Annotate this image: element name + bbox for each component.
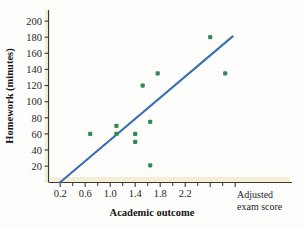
data-point [88, 132, 92, 136]
y-tick-label: 40 [32, 145, 43, 156]
y-tick-label: 180 [26, 32, 42, 43]
data-point [114, 132, 118, 136]
data-point [141, 83, 145, 87]
y-tick-label: 200 [26, 16, 42, 27]
y-tick-label: 120 [26, 80, 42, 91]
y-tick-label: 140 [26, 64, 42, 75]
y-axis-title: Homework (minutes) [4, 48, 16, 144]
y-tick-label: 100 [26, 96, 42, 107]
x-tick-label: 2.2 [179, 188, 192, 199]
x-tick-label: 0.6 [79, 188, 92, 199]
chart-canvas: 200 180 160 140 120 100 80 60 40 20 [0, 0, 306, 229]
y-axis-tick-labels: 200 180 160 140 120 100 80 60 40 20 [26, 16, 42, 172]
y-tick-label: 80 [32, 113, 43, 124]
x-tick-label: 1.0 [104, 188, 117, 199]
x-tick-label: 0.2 [54, 188, 67, 199]
data-point [133, 132, 137, 136]
y-tick-label: 60 [32, 129, 43, 140]
data-points-group [88, 35, 227, 167]
data-point [156, 71, 160, 75]
x-axis-secondary-label-line2: exam score [237, 201, 283, 212]
data-point [133, 140, 137, 144]
x-tick-label: 1.4 [129, 188, 143, 199]
y-tick-label: 160 [26, 48, 42, 59]
trend-line [60, 36, 233, 182]
x-axis-secondary-label-line1: Adjusted [237, 189, 273, 200]
x-axis-title: Academic outcome [110, 207, 195, 218]
x-tick-label: 1.8 [154, 188, 167, 199]
data-point [148, 163, 152, 167]
y-axis-band [45, 10, 50, 182]
data-point [223, 71, 227, 75]
x-axis-ticks [60, 183, 235, 188]
scatter-chart-figure: 200 180 160 140 120 100 80 60 40 20 [0, 0, 306, 229]
data-point [148, 120, 152, 124]
y-tick-label: 20 [32, 161, 43, 172]
data-point [208, 35, 212, 39]
data-point [114, 124, 118, 128]
x-axis-tick-labels: 0.2 0.6 1.0 1.4 1.8 2.2 [54, 188, 192, 199]
